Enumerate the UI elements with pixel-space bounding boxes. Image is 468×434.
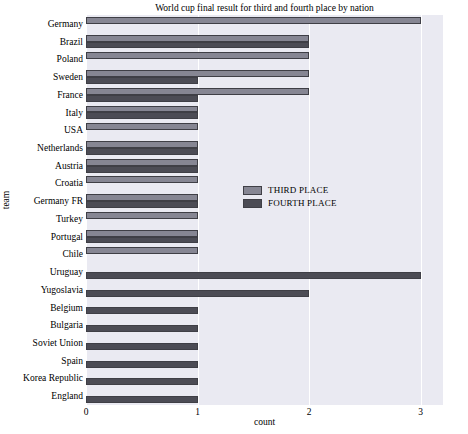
y-tick-label: Yugoslavia <box>1 285 83 295</box>
bar-group <box>86 33 443 51</box>
bar <box>86 166 198 173</box>
bar <box>86 88 309 95</box>
bar <box>86 112 198 119</box>
y-tick-label: USA <box>1 125 83 135</box>
bar-group <box>86 139 443 157</box>
bar-group <box>86 121 443 139</box>
bar <box>86 17 421 24</box>
y-tick-label: Uruguay <box>1 267 83 277</box>
bar-group <box>86 157 443 175</box>
bar <box>86 396 198 403</box>
chart-title: World cup final result for third and fou… <box>86 3 443 14</box>
y-tick-label: Turkey <box>1 214 83 224</box>
bar <box>86 77 198 84</box>
y-tick-label: Netherlands <box>1 143 83 153</box>
y-tick-label: Soviet Union <box>1 338 83 348</box>
y-tick-label: Brazil <box>1 37 83 47</box>
bar <box>86 176 198 183</box>
y-axis-tick-labels: GermanyBrazilPolandSwedenFranceItalyUSAN… <box>0 15 83 405</box>
bar <box>86 247 198 254</box>
y-tick-label: Italy <box>1 108 83 118</box>
bar <box>86 123 198 130</box>
bar <box>86 148 198 155</box>
y-tick-label: Korea Republic <box>1 373 83 383</box>
bar-group <box>86 50 443 68</box>
bar <box>86 201 198 208</box>
y-tick-label: Chile <box>1 249 83 259</box>
y-tick-label: Sweden <box>1 72 83 82</box>
bar-group <box>86 281 443 299</box>
bar-group <box>86 104 443 122</box>
bar <box>86 52 309 59</box>
bar <box>86 343 198 350</box>
bar-group <box>86 263 443 281</box>
bar <box>86 141 198 148</box>
y-tick-label: England <box>1 391 83 401</box>
bar <box>86 35 309 42</box>
bar-group <box>86 245 443 263</box>
bar <box>86 95 198 102</box>
y-tick-label: Poland <box>1 54 83 64</box>
legend-label-third-place: THIRD PLACE <box>268 185 328 195</box>
y-tick-label: Croatia <box>1 178 83 188</box>
bar <box>86 106 198 113</box>
bar <box>86 212 198 219</box>
bar <box>86 325 198 332</box>
x-axis-label: count <box>86 417 443 427</box>
legend-swatch-third-place-icon <box>243 186 262 195</box>
legend: THIRD PLACE FOURTH PLACE <box>239 180 342 213</box>
legend-swatch-fourth-place-icon <box>243 199 262 208</box>
bar <box>86 307 198 314</box>
chart-figure: World cup final result for third and fou… <box>0 0 468 434</box>
bar-group <box>86 387 443 405</box>
y-tick-label: Belgium <box>1 303 83 313</box>
y-tick-label: Portugal <box>1 232 83 242</box>
bar-group <box>86 68 443 86</box>
y-tick-label: Bulgaria <box>1 320 83 330</box>
bar <box>86 194 198 201</box>
legend-item-fourth-place: FOURTH PLACE <box>243 197 337 209</box>
y-tick-label: Spain <box>1 356 83 366</box>
y-tick-label: Germany <box>1 19 83 29</box>
bar <box>86 42 309 49</box>
bar <box>86 237 198 244</box>
bar <box>86 272 421 279</box>
bar-group <box>86 316 443 334</box>
y-tick-label: Austria <box>1 161 83 171</box>
legend-label-fourth-place: FOURTH PLACE <box>268 198 337 208</box>
legend-item-third-place: THIRD PLACE <box>243 184 337 196</box>
bar <box>86 159 198 166</box>
bar <box>86 290 309 297</box>
bar-group <box>86 299 443 317</box>
bar-group <box>86 228 443 246</box>
y-axis-label: team <box>1 180 11 220</box>
bar <box>86 378 198 385</box>
bar-group <box>86 370 443 388</box>
bar <box>86 230 198 237</box>
y-tick-label: Germany FR <box>1 196 83 206</box>
y-tick-label: France <box>1 90 83 100</box>
bar <box>86 361 198 368</box>
bar-group <box>86 15 443 33</box>
bar-group <box>86 86 443 104</box>
bar <box>86 70 309 77</box>
bar-group <box>86 352 443 370</box>
bar-group <box>86 334 443 352</box>
